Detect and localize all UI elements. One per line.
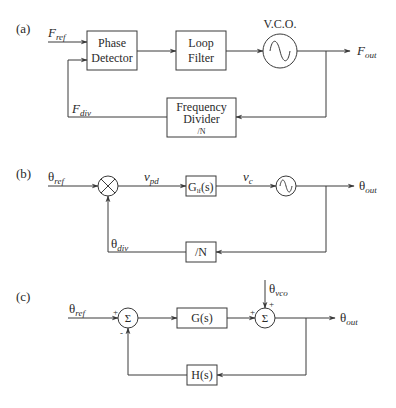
divider-block-b: /N [186,242,216,262]
phase-detector-line2: Detector [91,51,132,65]
loop-filter-block: Loop Filter [176,31,226,70]
theta-vco-label: θvco [269,281,288,298]
h-s-label: H(s) [191,368,212,382]
f-out-label: Fout [356,43,377,60]
multiplier-block [98,176,118,196]
panel-a-label: (a) [16,21,30,36]
panel-c: (c) θref Σ + - G(s) Σ + + θvco θout [16,280,358,385]
forward-gain-block: G(s) [177,308,227,328]
theta-ref-label-c: θref [69,301,86,318]
vco-label: V.C.O. [264,17,297,31]
sigma-icon: Σ [125,312,131,324]
vco-block-b [276,176,296,196]
output-to-n-path [216,186,326,252]
phase-detector-line1: Phase [98,36,126,50]
loop-filter-gain-block: Glf(s) [186,176,216,196]
loop-filter-line2: Filter [188,51,214,65]
theta-div-label: θdiv [111,236,128,253]
feedback-gain-block: H(s) [187,365,217,385]
plus-sign: + [269,299,274,309]
f-ref-label: Fref [47,25,67,42]
divider-line3: /N [198,127,206,136]
theta-out-label-c: θout [340,310,358,327]
sigma-icon: Σ [262,312,268,324]
panel-b-label: (b) [16,166,31,181]
summing-junction-1: Σ + - [113,307,138,338]
theta-out-label: θout [359,178,377,195]
h-to-sum1-path [128,328,187,375]
minus-sign: - [120,328,123,338]
glf-label: Glf(s) [188,180,214,195]
divider-line2: Divider [183,112,220,126]
plus-sign: + [113,307,118,317]
loop-filter-line1: Loop [188,36,213,50]
vpd-label: vpd [144,169,159,186]
vco-block: V.C.O. [263,17,297,68]
theta-ref-label: θref [48,169,65,186]
pll-block-diagrams: (a) Fref Phase Detector Loop Filter V.C.… [0,0,396,408]
panel-b: (b) θref vpd Glf(s) vc θout /N [16,166,377,262]
g-s-label: G(s) [191,311,212,325]
summing-junction-2: Σ + + [250,299,275,328]
n-divider-label: /N [195,245,207,259]
phase-detector-block: Phase Detector [87,31,137,70]
plus-sign: + [250,307,255,317]
vc-label: vc [243,169,253,186]
panel-a: (a) Fref Phase Detector Loop Filter V.C.… [16,17,377,137]
panel-c-label: (c) [16,289,30,304]
f-div-label: Fdiv [71,101,91,118]
frequency-divider-block: Frequency Divider /N [167,98,236,137]
